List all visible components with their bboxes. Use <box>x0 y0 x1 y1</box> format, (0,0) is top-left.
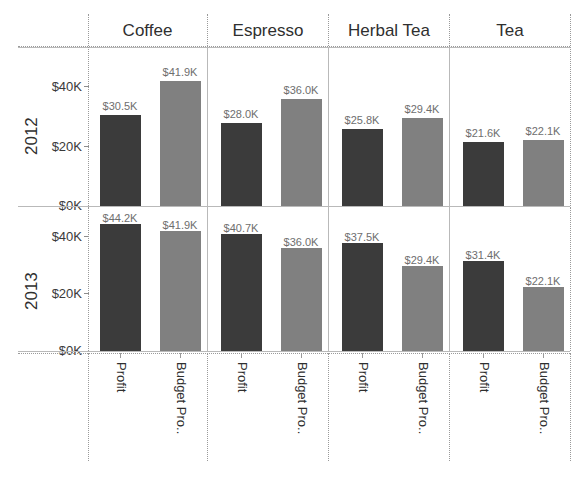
bar-2013-espresso-budget[interactable] <box>281 248 322 351</box>
y-tick-2013-40k: $40K <box>36 229 82 244</box>
x-tick-5 <box>422 353 423 358</box>
baseline-2012 <box>18 206 570 207</box>
panel-edge-2013-right <box>570 207 571 351</box>
bar-2013-herbal-tea-budget[interactable] <box>402 266 443 351</box>
x-label-herbal-tea-budget: Budget Pro.. <box>416 362 431 434</box>
x-tick-6 <box>483 353 484 358</box>
bar-label-2012-coffee-profit: $30.5K <box>103 100 138 112</box>
x-label-tea-budget: Budget Pro.. <box>537 362 552 434</box>
bar-2013-herbal-tea-profit[interactable] <box>342 243 383 351</box>
x-label-espresso-profit: Profit <box>235 362 250 392</box>
bar-2012-espresso-profit[interactable] <box>221 123 262 206</box>
row-top-rule <box>18 47 570 48</box>
panel-divider-2012-2 <box>328 47 329 206</box>
panel-divider-2012-1 <box>207 47 208 206</box>
bar-label-2012-tea-profit: $21.6K <box>466 127 501 139</box>
x-tick-3 <box>301 353 302 358</box>
bar-2013-tea-profit[interactable] <box>463 261 504 351</box>
bar-label-2013-tea-profit: $31.4K <box>466 249 501 261</box>
bar-label-2012-tea-budget: $22.1K <box>526 125 561 137</box>
bottom-guide-1 <box>207 353 208 461</box>
column-header-herbal-tea: Herbal Tea <box>329 18 449 44</box>
bottom-guide-3 <box>449 353 450 461</box>
panel-edge-2012-right <box>570 47 571 206</box>
bar-2013-coffee-budget[interactable] <box>160 231 201 351</box>
x-tick-2 <box>241 353 242 358</box>
panel-divider-2013-3 <box>449 207 450 351</box>
panel-divider-2013-2 <box>328 207 329 351</box>
bar-label-2012-coffee-budget: $41.9K <box>163 66 198 78</box>
header-divider-1 <box>207 14 208 46</box>
y-axis-2012 <box>88 47 89 206</box>
bar-label-2013-tea-budget: $22.1K <box>526 275 561 287</box>
bar-label-2013-coffee-budget: $41.9K <box>163 219 198 231</box>
bar-2013-coffee-profit[interactable] <box>100 224 141 351</box>
y-tick-2013-0k: $0K <box>36 343 82 358</box>
bar-2012-tea-profit[interactable] <box>463 142 504 206</box>
bar-label-2012-espresso-budget: $36.0K <box>284 84 319 96</box>
x-label-coffee-profit: Profit <box>114 362 129 392</box>
bottom-guide-2 <box>328 353 329 461</box>
x-label-tea-profit: Profit <box>477 362 492 392</box>
x-label-espresso-budget: Budget Pro.. <box>295 362 310 434</box>
bar-2012-coffee-budget[interactable] <box>160 81 201 206</box>
y-tick-2012-0k: $0K <box>36 198 82 213</box>
bar-label-2013-espresso-profit: $40.7K <box>224 222 259 234</box>
bar-2012-herbal-tea-profit[interactable] <box>342 129 383 206</box>
bar-2012-herbal-tea-budget[interactable] <box>402 118 443 206</box>
bar-label-2013-herbal-tea-profit: $37.5K <box>345 231 380 243</box>
chart-canvas: Coffee Espresso Herbal Tea Tea 2012 $40K… <box>0 0 586 481</box>
x-tick-7 <box>543 353 544 358</box>
x-label-coffee-budget: Budget Pro.. <box>174 362 189 434</box>
header-divider-0 <box>88 14 89 46</box>
bar-label-2013-herbal-tea-budget: $29.4K <box>405 254 440 266</box>
column-header-espresso: Espresso <box>208 18 328 44</box>
y-tick-2013-20k: $20K <box>36 286 82 301</box>
panel-divider-2013-1 <box>207 207 208 351</box>
bar-label-2013-coffee-profit: $44.2K <box>103 212 138 224</box>
x-tick-1 <box>180 353 181 358</box>
bar-2013-tea-budget[interactable] <box>523 287 564 351</box>
bar-label-2012-herbal-tea-profit: $25.8K <box>345 114 380 126</box>
bottom-border <box>18 353 570 354</box>
x-tick-4 <box>362 353 363 358</box>
header-divider-4 <box>570 14 571 46</box>
y-tick-2012-20k: $20K <box>36 139 82 154</box>
baseline-2013 <box>18 351 570 352</box>
bar-2012-tea-budget[interactable] <box>523 140 564 206</box>
bar-label-2012-herbal-tea-budget: $29.4K <box>405 103 440 115</box>
header-divider-2 <box>328 14 329 46</box>
header-divider-3 <box>449 14 450 46</box>
row-label-2012: 2012 <box>22 104 44 168</box>
bottom-guide-0 <box>88 353 89 461</box>
bottom-guide-4 <box>570 353 571 461</box>
y-tick-2012-40k: $40K <box>36 79 82 94</box>
panel-divider-2012-3 <box>449 47 450 206</box>
bar-label-2013-espresso-budget: $36.0K <box>284 236 319 248</box>
x-tick-0 <box>120 353 121 358</box>
column-header-tea: Tea <box>450 18 570 44</box>
bar-2013-espresso-profit[interactable] <box>221 234 262 351</box>
y-axis-2013 <box>88 207 89 351</box>
bar-2012-coffee-profit[interactable] <box>100 115 141 206</box>
column-header-coffee: Coffee <box>88 18 207 44</box>
bar-label-2012-espresso-profit: $28.0K <box>224 108 259 120</box>
x-label-herbal-tea-profit: Profit <box>356 362 371 392</box>
bar-2012-espresso-budget[interactable] <box>281 99 322 206</box>
